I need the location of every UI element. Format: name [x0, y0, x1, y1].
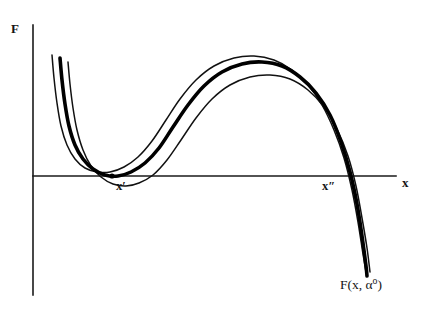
tangency-point-label: x′	[116, 180, 126, 193]
curve-label-base: F(x, α	[340, 277, 373, 292]
curve-family-group	[52, 55, 370, 276]
tangency-point-marker	[109, 173, 114, 178]
upper-thin-curve	[52, 55, 366, 272]
crossing-label-prime: ″	[328, 179, 335, 193]
middle-thick-curve	[60, 58, 367, 276]
curve-label-close: )	[377, 277, 382, 292]
lower-thin-curve	[68, 62, 370, 272]
tangency-label-prime: ′	[122, 179, 126, 193]
crossing-point-label: x″	[322, 180, 335, 193]
y-axis-label: F	[11, 22, 19, 35]
marker-points-group	[109, 173, 114, 178]
figure-canvas: F x x′ x″ F(x, αo)	[0, 0, 425, 320]
x-axis-label: x	[402, 176, 409, 189]
curve-family-label: F(x, αo)	[340, 278, 382, 292]
figure-drawing	[0, 0, 425, 320]
